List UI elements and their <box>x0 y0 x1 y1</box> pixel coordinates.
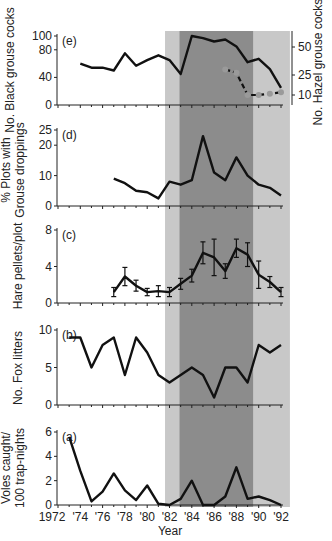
y-tick-label: 25 <box>39 123 53 137</box>
y-tick-label: 4 <box>45 260 52 274</box>
y-tick-label: 20 <box>39 138 53 152</box>
y-tick-label: 2 <box>45 474 52 488</box>
x-tick-label: '78 <box>117 510 133 524</box>
y-tick-label: 80 <box>39 43 53 57</box>
x-tick-label: '84 <box>184 510 200 524</box>
y-axis-title-fox-litters: No. Fox litters <box>11 331 25 405</box>
y-tick-label: 100 <box>32 29 52 43</box>
y-tick-label: 0 <box>45 398 52 412</box>
y-axis-title-voles-2: 100 trap-nights <box>13 428 27 508</box>
x-tick-label: 1972 <box>39 510 66 524</box>
y-axis-title-grouse-droppings-2: Grouse droppings <box>13 122 27 217</box>
x-tick-label: '74 <box>72 510 88 524</box>
y-tick-label: 6 <box>45 425 52 439</box>
x-tick-label: '76 <box>95 510 111 524</box>
x-axis-title: Year <box>158 524 182 538</box>
y-tick-label: 5 <box>45 361 52 375</box>
panel-label: (d) <box>62 128 77 142</box>
panel-label: (b) <box>62 328 77 342</box>
hazel-grouse-marker <box>256 92 262 98</box>
y-axis-title-black-grouse: No. Black grouse cocks <box>3 7 17 132</box>
right-y-tick-label: 50 <box>298 40 312 54</box>
hazel-grouse-marker <box>233 70 239 76</box>
right-y-tick-label: 10 <box>298 88 312 102</box>
y-tick-label: 8 <box>45 223 52 237</box>
y-tick-label: 40 <box>39 70 53 84</box>
y-tick-label: 10 <box>39 169 53 183</box>
y-tick-label: 0 <box>45 296 52 310</box>
x-tick-label: '88 <box>229 510 245 524</box>
panel-label: (c) <box>62 228 76 242</box>
y-axis-title-hazel-grouse: No. Hazel grouse cocks <box>311 0 325 125</box>
y-axis-title-voles-1: Voles caught/ <box>0 431 13 504</box>
x-tick-label: '86 <box>206 510 222 524</box>
y-tick-label: 4 <box>45 449 52 463</box>
y-tick-label: 0 <box>45 199 52 213</box>
y-tick-label: 10 <box>39 323 53 337</box>
chart-figure: 04080100(e)1025500102025(d)048(c)0510(b)… <box>0 0 332 541</box>
right-y-tick-label: 25 <box>298 68 312 82</box>
y-tick-label: 0 <box>45 98 52 112</box>
y-axis-title-hare-pellets: Hare pellets/plot <box>11 222 25 309</box>
y-axis-title-grouse-droppings-1: % Plots with <box>0 137 13 202</box>
hazel-grouse-marker <box>278 89 284 95</box>
panel-label: (e) <box>62 34 77 48</box>
x-tick-label: '82 <box>162 510 178 524</box>
hazel-grouse-marker <box>222 66 228 72</box>
x-tick-label: '80 <box>139 510 155 524</box>
x-tick-label: '92 <box>273 510 289 524</box>
hazel-grouse-marker <box>267 91 273 97</box>
x-tick-label: '90 <box>251 510 267 524</box>
hazel-grouse-marker <box>245 92 251 98</box>
